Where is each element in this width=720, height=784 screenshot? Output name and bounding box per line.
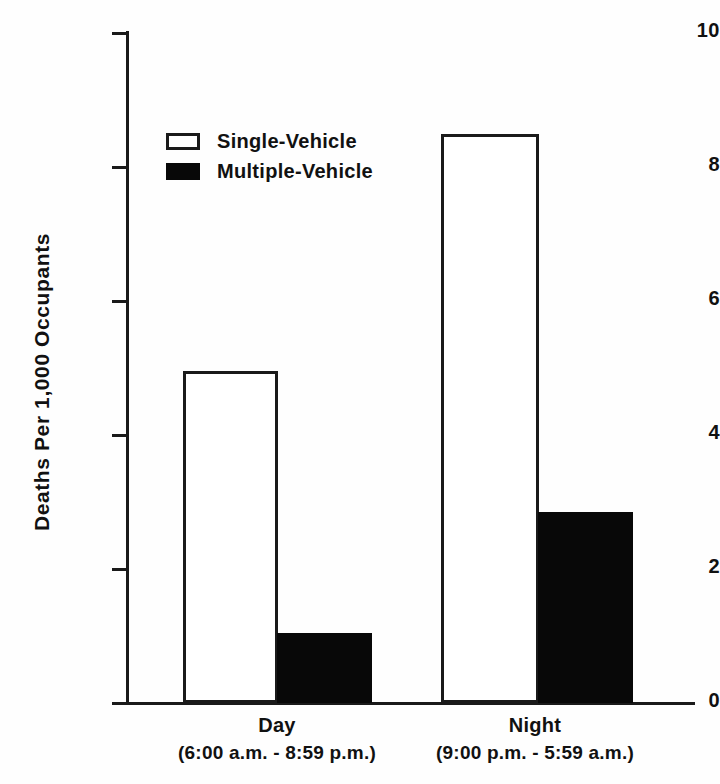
legend-swatch-filled-icon: [166, 163, 200, 180]
y-tick-label-4: 4: [674, 421, 720, 444]
y-tick-label-2: 2: [674, 555, 720, 578]
legend-swatch-outline-icon: [166, 133, 200, 150]
y-axis-line: [126, 31, 129, 705]
legend-item-multiple-vehicle: Multiple-Vehicle: [166, 156, 373, 186]
x-axis-group-night-range: (9:00 p.m. - 5:59 a.m.): [410, 742, 660, 764]
y-tick-label-6: 6: [674, 287, 720, 310]
bar-day-single-vehicle: [183, 371, 278, 703]
y-tick-label-8: 8: [674, 153, 720, 176]
x-axis-group-day-label: Day: [157, 714, 397, 737]
y-tick-label-0: 0: [674, 689, 720, 712]
y-tick-mark-0: [112, 702, 127, 705]
y-tick-mark-8: [112, 166, 127, 169]
x-axis-group-night: Night (9:00 p.m. - 5:59 a.m.): [410, 714, 660, 764]
x-axis-group-day: Day (6:00 a.m. - 8:59 p.m.): [157, 714, 397, 764]
y-tick-label-10: 10: [674, 19, 720, 42]
y-tick-mark-6: [112, 300, 127, 303]
bar-night-multiple-vehicle: [538, 512, 633, 703]
legend-item-single-vehicle: Single-Vehicle: [166, 126, 373, 156]
bar-day-multiple-vehicle: [277, 633, 372, 703]
y-tick-mark-2: [112, 568, 127, 571]
x-axis-group-night-label: Night: [410, 714, 660, 737]
legend-label-multiple-vehicle: Multiple-Vehicle: [217, 160, 373, 183]
y-axis-title: Deaths Per 1,000 Occupants: [30, 147, 54, 617]
legend-label-single-vehicle: Single-Vehicle: [217, 130, 357, 153]
bar-chart: Deaths Per 1,000 Occupants 10 8 6 4 2 0 …: [0, 0, 720, 784]
y-tick-mark-10: [112, 32, 127, 35]
bar-night-single-vehicle: [441, 134, 539, 704]
x-axis-group-day-range: (6:00 a.m. - 8:59 p.m.): [157, 742, 397, 764]
y-tick-mark-4: [112, 434, 127, 437]
chart-legend: Single-Vehicle Multiple-Vehicle: [166, 126, 373, 186]
